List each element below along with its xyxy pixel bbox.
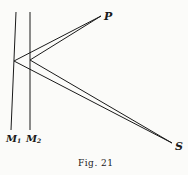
ray-m2-to-s: [30, 60, 172, 143]
ray-m1-to-p: [14, 16, 101, 61]
figure-caption: Fig. 21: [78, 158, 114, 168]
label-m2: M2: [25, 133, 41, 144]
ray-m1-to-s: [14, 61, 172, 143]
label-p: P: [103, 10, 113, 23]
ray-m2-to-p: [30, 16, 101, 60]
label-s: S: [175, 140, 183, 153]
figure-21: P S M1 M2 Fig. 21: [0, 0, 188, 175]
mirror-m1-line: [11, 12, 16, 130]
mirror-diagram: P S M1 M2 Fig. 21: [0, 0, 188, 175]
label-m1: M1: [5, 133, 21, 144]
